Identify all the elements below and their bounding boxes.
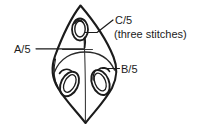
c-leader-line bbox=[85, 20, 113, 33]
label-c-note-three-stitches: (three stitches) bbox=[114, 28, 187, 40]
top-loop-tail bbox=[85, 38, 86, 48]
top-loop-inner bbox=[75, 21, 85, 37]
diagram-canvas: A/5 B/5 C/5 (three stitches) bbox=[0, 0, 207, 132]
leaf-inner-contour bbox=[54, 59, 58, 89]
label-c-over-5: C/5 bbox=[115, 14, 132, 26]
center-spine-line bbox=[84, 38, 85, 121]
leaf-motif-drawing bbox=[0, 0, 207, 132]
label-a-over-5: A/5 bbox=[14, 43, 31, 55]
label-b-over-5: B/5 bbox=[121, 63, 138, 75]
